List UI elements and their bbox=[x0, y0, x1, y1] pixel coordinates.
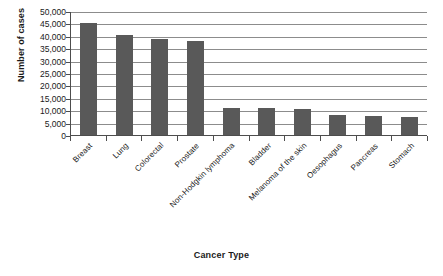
y-tick-label: 10,000 bbox=[18, 107, 66, 115]
x-category-label: Bladder bbox=[247, 141, 273, 167]
bar bbox=[294, 109, 311, 135]
bar-slot bbox=[213, 12, 249, 135]
bar bbox=[223, 108, 240, 135]
bar bbox=[151, 39, 168, 135]
bar-slot bbox=[320, 12, 356, 135]
x-category-label: Breast bbox=[71, 141, 94, 164]
x-category-label: Prostate bbox=[173, 141, 201, 169]
x-axis-category-labels: BreastLungColorectalProstateNon-Hodgkin … bbox=[70, 141, 427, 221]
x-category-label: Oesophagus bbox=[305, 141, 344, 180]
x-category-label: Stomach bbox=[387, 141, 416, 170]
plot-area bbox=[70, 12, 427, 136]
bar-slot bbox=[285, 12, 321, 135]
y-tick-label: 20,000 bbox=[18, 82, 66, 90]
y-axis-tick-labels: 05,00010,00015,00020,00025,00030,00035,0… bbox=[18, 12, 66, 136]
bar bbox=[116, 35, 133, 135]
y-tick-label: 30,000 bbox=[18, 58, 66, 66]
bar bbox=[258, 108, 275, 135]
bar bbox=[80, 23, 97, 135]
y-tick-label: 5,000 bbox=[18, 120, 66, 128]
bar bbox=[401, 117, 418, 135]
x-category-label: Non-Hodgkin lymphoma bbox=[168, 141, 236, 209]
bar bbox=[365, 116, 382, 135]
bar-chart-figure: Number of cases 05,00010,00015,00020,000… bbox=[0, 0, 443, 276]
bar-series bbox=[71, 12, 427, 135]
bar bbox=[187, 41, 204, 135]
bar-slot bbox=[178, 12, 214, 135]
bar-slot bbox=[142, 12, 178, 135]
x-category-label: Colorectal bbox=[133, 141, 166, 174]
x-category-label: Pancreas bbox=[349, 141, 380, 172]
bar-slot bbox=[71, 12, 107, 135]
y-tick-label: 15,000 bbox=[18, 95, 66, 103]
x-axis-title: Cancer Type bbox=[0, 250, 443, 260]
bar-slot bbox=[249, 12, 285, 135]
x-category-label: Lung bbox=[111, 141, 130, 160]
y-tick-label: 50,000 bbox=[18, 8, 66, 16]
x-tick-mark bbox=[427, 136, 428, 141]
y-tick-label: 45,000 bbox=[18, 20, 66, 28]
bar-slot bbox=[391, 12, 427, 135]
bar-slot bbox=[107, 12, 143, 135]
bar bbox=[329, 115, 346, 135]
y-tick-label: 25,000 bbox=[18, 70, 66, 78]
bar-slot bbox=[356, 12, 392, 135]
y-tick-label: 40,000 bbox=[18, 33, 66, 41]
y-tick-label: 35,000 bbox=[18, 45, 66, 53]
y-tick-label: 0 bbox=[18, 132, 66, 140]
